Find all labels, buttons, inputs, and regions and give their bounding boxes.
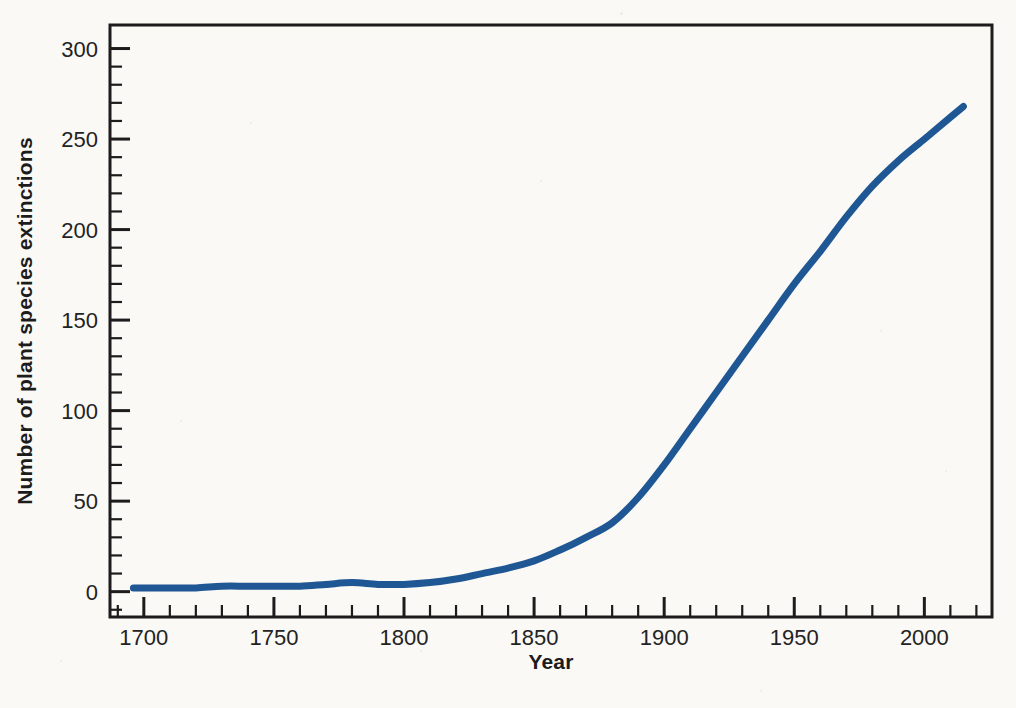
plant-extinctions-line-chart: 1700175018001850190019502000050100150200… bbox=[0, 0, 1016, 708]
y-tick-label: 250 bbox=[61, 127, 98, 152]
plot-frame bbox=[110, 25, 992, 617]
axis-ticks bbox=[110, 49, 976, 617]
scan-speck bbox=[880, 330, 882, 332]
figure-page: 1700175018001850190019502000050100150200… bbox=[0, 0, 1016, 708]
extinctions-curve bbox=[133, 107, 963, 589]
y-axis-title: Number of plant species extinctions bbox=[13, 137, 36, 505]
scan-speck bbox=[620, 12, 623, 15]
scan-speck bbox=[250, 122, 252, 124]
x-axis-title: Year bbox=[528, 650, 573, 673]
y-tick-label: 50 bbox=[74, 489, 98, 514]
scan-speck bbox=[60, 660, 62, 662]
x-tick-label: 1900 bbox=[640, 625, 689, 650]
scan-speck bbox=[180, 420, 182, 422]
y-tick-label: 200 bbox=[61, 218, 98, 243]
x-tick-label: 1750 bbox=[249, 625, 298, 650]
x-tick-label: 2000 bbox=[900, 625, 949, 650]
y-tick-label: 150 bbox=[61, 308, 98, 333]
cumulative-plant-species-extinctions bbox=[133, 107, 963, 589]
scan-speck bbox=[540, 180, 542, 182]
axis-tick-labels: 1700175018001850190019502000050100150200… bbox=[61, 37, 949, 650]
y-tick-label: 100 bbox=[61, 399, 98, 424]
y-tick-label: 300 bbox=[61, 37, 98, 62]
axes-frame bbox=[110, 25, 992, 617]
x-tick-label: 1800 bbox=[380, 625, 429, 650]
scan-speck bbox=[760, 690, 762, 692]
scan-speck bbox=[945, 470, 947, 472]
x-tick-label: 1950 bbox=[770, 625, 819, 650]
x-tick-label: 1850 bbox=[510, 625, 559, 650]
scan-speck bbox=[420, 650, 422, 652]
y-tick-label: 0 bbox=[86, 580, 98, 605]
x-tick-label: 1700 bbox=[119, 625, 168, 650]
